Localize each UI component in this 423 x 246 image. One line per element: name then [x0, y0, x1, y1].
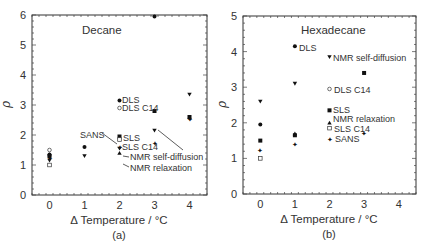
- chart-title-hexadecane: Hexadecane: [301, 24, 366, 36]
- annotation-dls-c14-b: DLS C14: [334, 85, 371, 95]
- data-point-sans: ✦: [327, 136, 333, 143]
- x-tick-label: 2: [326, 198, 332, 210]
- data-point-sls-c14: [118, 138, 122, 142]
- panel-b: 012345 01234 Hexadecane ρ Δ Temperature …: [215, 10, 416, 240]
- y-tick-label: 3: [231, 81, 237, 93]
- x-tick-label: 1: [81, 199, 87, 211]
- data-point-dls-c14: [118, 106, 122, 110]
- panel-label-b: (b): [322, 228, 335, 240]
- annotation-dls-c14-a: DLS C14: [122, 103, 159, 113]
- data-point-dls: [293, 44, 297, 48]
- y-tick-label: 4: [231, 46, 237, 58]
- annotation-nmr-self-diffusion-a: NMR self-diffusion: [130, 152, 203, 162]
- x-tick-label: 4: [396, 198, 402, 210]
- annotation-nmr-relaxation-a: NMR relaxation: [130, 163, 192, 173]
- arrow-nmr-sd-a: [123, 156, 129, 157]
- x-tick-labels-b: 01234: [257, 198, 402, 210]
- annotation-sls-c14-b: SLS C14: [334, 124, 370, 134]
- arrow-nmr-sd-3-a: [158, 130, 183, 150]
- plot-frame-b: [243, 16, 416, 194]
- arrow-nmr-rel-a: [123, 164, 129, 167]
- data-point-sls: [258, 139, 262, 143]
- x-tick-label: 3: [151, 199, 157, 211]
- data-point-sls: [362, 71, 366, 75]
- annotation-sans-b: SANS: [335, 134, 360, 144]
- y-tick-labels-b: 012345: [231, 10, 237, 200]
- x-axis-label-a: Δ Temperature / °C: [70, 214, 167, 226]
- panel-label-a: (a): [112, 229, 125, 241]
- x-tick-label: 1: [292, 198, 298, 210]
- x-tick-label: 3: [361, 198, 367, 210]
- data-point-nmr-self-diffusion: [293, 82, 297, 86]
- annotation-sls-c14-a: SLS C14: [122, 142, 158, 152]
- y-tick-labels-a: 0123456: [20, 9, 26, 201]
- x-tick-label: 2: [116, 199, 122, 211]
- data-point-dls: [118, 99, 122, 103]
- ticks-b: [243, 16, 416, 194]
- data-points-a: ✦✦✦✦: [47, 15, 193, 167]
- y-tick-label: 1: [231, 152, 237, 164]
- y-axis-label-b: ρ: [215, 101, 229, 109]
- annotation-nmr-relaxation-b: NMR relaxation: [333, 114, 395, 124]
- annotation-dls-b: DLS: [299, 43, 317, 53]
- data-point-nmr-self-diffusion: [82, 154, 86, 158]
- annotation-sans-a: SANS: [80, 130, 105, 140]
- data-point-dls: [83, 145, 87, 149]
- y-tick-label: 0: [20, 189, 26, 201]
- y-tick-label: 2: [231, 117, 237, 129]
- data-point-nmr-relaxation: [327, 121, 331, 125]
- y-tick-label: 4: [20, 69, 26, 81]
- y-tick-label: 0: [231, 188, 237, 200]
- data-point-sls-c14: [48, 163, 52, 167]
- y-tick-label: 1: [20, 159, 26, 171]
- x-tick-label: 0: [257, 198, 263, 210]
- y-axis-label-a: ρ: [0, 101, 13, 109]
- data-point-nmr-self-diffusion: [327, 55, 331, 59]
- y-tick-label: 6: [20, 9, 26, 21]
- data-point-nmr-self-diffusion: [187, 93, 191, 97]
- x-tick-label: 4: [186, 199, 192, 211]
- data-point-sls-c14: [259, 157, 263, 161]
- data-point-nmr-self-diffusion: [258, 100, 262, 104]
- data-point-sans: ✦: [292, 141, 298, 148]
- data-point-dls: [258, 123, 262, 127]
- annotation-nmr-self-diffusion-b: NMR self-diffusion: [333, 53, 406, 63]
- x-axis-label-b: Δ Temperature / °C: [280, 213, 377, 225]
- chart-title-decane: Decane: [82, 24, 122, 36]
- x-tick-labels-a: 01234: [46, 199, 192, 211]
- y-tick-label: 5: [231, 10, 237, 22]
- y-tick-label: 3: [20, 99, 26, 111]
- y-tick-label: 2: [20, 129, 26, 141]
- panel-a: 0123456 01234 Decane ρ Δ Temperature / °…: [0, 9, 207, 241]
- data-point-dls: [153, 15, 157, 19]
- data-point-sls-c14: [328, 126, 332, 130]
- y-tick-label: 5: [20, 39, 26, 51]
- x-tick-label: 0: [46, 199, 52, 211]
- data-point-dls-c14: [48, 148, 52, 152]
- data-point-dls-c14: [328, 87, 332, 91]
- data-point-nmr-self-diffusion: [152, 129, 156, 133]
- data-point-sans: ✦: [257, 147, 263, 154]
- data-point-sls: [328, 108, 332, 112]
- figure: 0123456 01234 Decane ρ Δ Temperature / °…: [0, 0, 423, 246]
